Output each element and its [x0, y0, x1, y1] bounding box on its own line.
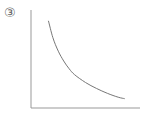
- chart: [0, 0, 144, 116]
- series-curve: [48, 21, 124, 99]
